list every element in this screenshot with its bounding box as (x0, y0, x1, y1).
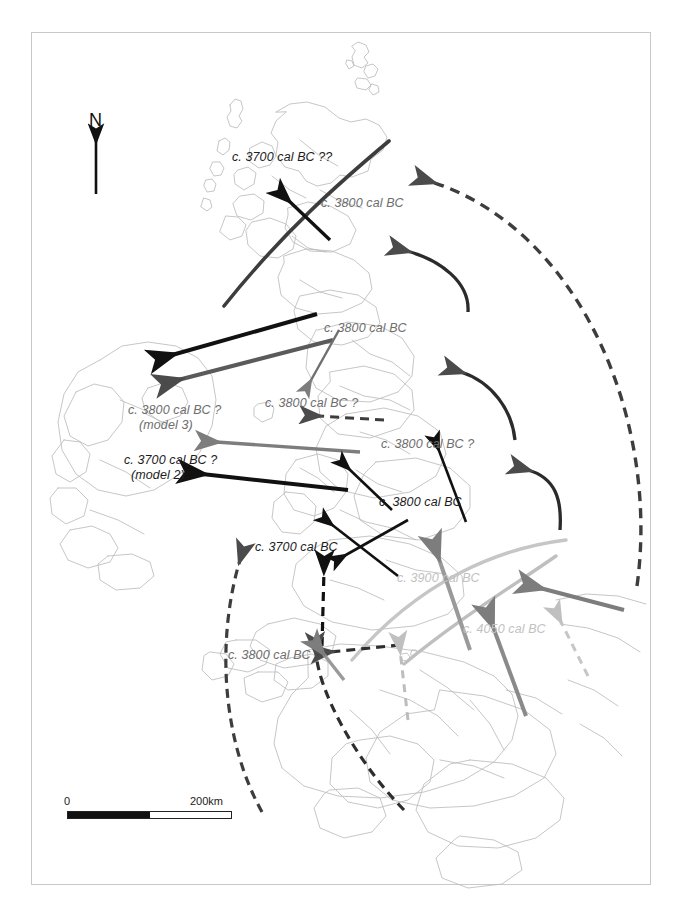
label-scotland-north: c. 3700 cal BC ?? (232, 150, 332, 164)
arrow-to-midlands (438, 448, 466, 522)
arrow-channel-north (492, 624, 526, 716)
arc-light-southwest (352, 540, 566, 660)
label-scotland-east: c. 3800 cal BC (321, 196, 404, 210)
scale-bar-min-label: 0 (64, 795, 70, 807)
label-channel: c. 4050 cal BC (463, 622, 546, 636)
label-ireland-model3-line1: c. 3800 cal BC ? (128, 403, 221, 417)
label-northern-england: c. 3800 cal BC (324, 321, 407, 335)
arrow-channel-from-east (540, 588, 624, 610)
scale-bar-fill (68, 812, 150, 818)
arrow-channel-inland (322, 652, 344, 680)
flow-arrow-layer (0, 0, 683, 905)
arrow-north-sea-curve-lower (528, 470, 560, 530)
arrow-to-ireland-model2 (202, 474, 348, 490)
map-figure: N c. 3700 cal BC ?? c. 3800 cal BC c. 38… (0, 0, 683, 905)
arrow-long-dashed-east (432, 182, 641, 586)
arrow-to-west-wales-dashed (322, 570, 324, 646)
arrow-north-sea-curve-mid (461, 372, 515, 440)
arrow-to-cumbria-dashed (318, 416, 384, 420)
label-southern-england: c. 3900 cal BC (397, 571, 480, 585)
arrow-to-wales (344, 520, 408, 556)
label-midlands: c. 3800 cal BC ? (381, 437, 474, 451)
arrow-to-isle-of-man (310, 330, 339, 382)
label-brittany: c. 3800 cal BC (228, 648, 311, 662)
label-ireland-model2-line2: (model 2) (131, 468, 185, 482)
north-arrow-label: N (89, 110, 102, 131)
arrow-north-sea-curve-upper (407, 251, 468, 312)
label-wales-east: c. 3800 cal BC (379, 495, 462, 509)
scale-bar (67, 811, 232, 819)
arrow-to-ireland-model3 (216, 442, 360, 452)
scale-bar-max-label: 200km (190, 795, 223, 807)
arrow-to-sw-ireland-long-dashed (316, 652, 404, 810)
label-ireland-model2-line1: c. 3700 cal BC ? (124, 453, 217, 467)
label-isle-of-man: c. 3800 cal BC ? (265, 396, 358, 410)
arrow-channel-light-dashed-east (560, 620, 588, 676)
arrow-brittany-inland-dashed (226, 560, 262, 812)
arc-scotland-boundary (224, 141, 389, 306)
label-ireland-model3-line2: (model 3) (139, 418, 193, 432)
label-wales-west: c. 3700 cal BC (255, 540, 338, 554)
